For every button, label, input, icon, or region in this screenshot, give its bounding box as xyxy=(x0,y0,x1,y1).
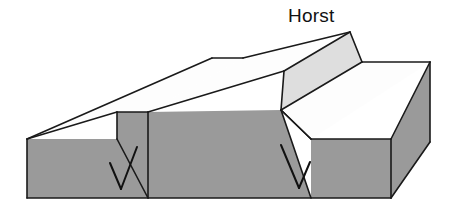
faces-group xyxy=(27,32,430,198)
block-diagram-canvas xyxy=(0,0,451,208)
left-top-front-edge xyxy=(27,112,117,139)
graben-front-face xyxy=(148,110,311,198)
horst-label: Horst xyxy=(288,6,334,25)
horst-block-diagram: Horst xyxy=(0,0,451,208)
right-front-face xyxy=(311,139,391,198)
